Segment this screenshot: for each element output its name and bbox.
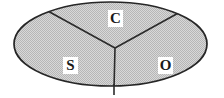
divider-lower-line — [114, 48, 115, 88]
region-label-c: C — [108, 10, 123, 27]
region-label-s: S — [63, 57, 78, 74]
diagram-canvas: C S O — [0, 0, 224, 98]
region-label-o: O — [158, 57, 173, 74]
